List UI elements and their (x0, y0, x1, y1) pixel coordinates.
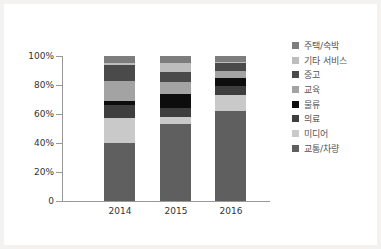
legend-swatch-icon (292, 130, 299, 137)
legend-item: 기타 서비스 (292, 53, 347, 68)
bar-segment (215, 63, 246, 70)
bar-segment (160, 94, 191, 109)
x-tick-label: 2014 (100, 206, 140, 216)
bar-segment (160, 117, 191, 124)
legend-swatch-icon (292, 101, 299, 108)
legend-item: 교육 (292, 82, 347, 97)
bar-segment (104, 105, 135, 118)
legend-swatch-icon (292, 115, 299, 122)
bar-segment (160, 82, 191, 94)
legend-label: 기타 서비스 (304, 54, 347, 67)
legend-label: 교육 (304, 83, 320, 96)
chart-legend: 주택/숙박기타 서비스중고교육물류의료미디어교통/차량 (292, 38, 347, 156)
legend-item: 의료 (292, 111, 347, 126)
legend-label: 의료 (304, 112, 320, 125)
y-tick (56, 114, 62, 115)
legend-item: 물류 (292, 97, 347, 112)
bar-segment (215, 111, 246, 201)
bar-segment (160, 124, 191, 201)
bar-segment (160, 72, 191, 82)
legend-swatch-icon (292, 57, 299, 64)
y-tick (56, 143, 62, 144)
bar-segment (104, 118, 135, 143)
legend-item: 중고 (292, 67, 347, 82)
bar-segment (104, 56, 135, 63)
legend-swatch-icon (292, 145, 299, 152)
y-tick-label: 0 (14, 196, 54, 206)
x-tick-label: 2016 (211, 206, 251, 216)
legend-label: 주택/숙박 (304, 39, 339, 52)
legend-item: 주택/숙박 (292, 38, 347, 53)
y-tick-label: 80% (14, 80, 54, 90)
bar-segment (160, 108, 191, 117)
y-tick-label: 20% (14, 167, 54, 177)
legend-item: 교통/차량 (292, 141, 347, 156)
bar-segment (160, 56, 191, 63)
legend-swatch-icon (292, 71, 299, 78)
bar-segment (215, 86, 246, 95)
x-axis-line (56, 201, 270, 202)
bar-segment (215, 78, 246, 87)
y-tick-label: 100% (14, 51, 54, 61)
y-axis-line (62, 56, 63, 201)
legend-label: 미디어 (304, 127, 328, 140)
legend-swatch-icon (292, 42, 299, 49)
legend-label: 중고 (304, 68, 320, 81)
y-tick (56, 85, 62, 86)
legend-label: 물류 (304, 98, 320, 111)
legend-item: 미디어 (292, 126, 347, 141)
legend-label: 교통/차량 (304, 142, 339, 155)
bar-segment (215, 71, 246, 78)
y-tick (56, 56, 62, 57)
y-tick-label: 40% (14, 138, 54, 148)
bar-2016 (215, 56, 246, 201)
y-tick-label: 60% (14, 109, 54, 119)
bar-segment (104, 81, 135, 101)
bar-segment (215, 95, 246, 111)
y-tick (56, 172, 62, 173)
bar-2014 (104, 56, 135, 201)
bar-segment (160, 63, 191, 72)
bar-segment (104, 143, 135, 201)
legend-swatch-icon (292, 86, 299, 93)
bar-segment (104, 65, 135, 81)
x-tick-label: 2015 (156, 206, 196, 216)
bar-2015 (160, 56, 191, 201)
